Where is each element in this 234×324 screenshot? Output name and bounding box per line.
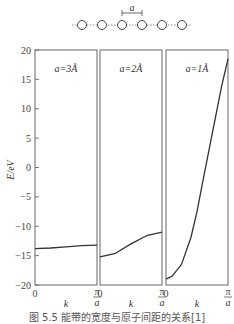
- atom-circle: [138, 21, 147, 30]
- y-axis-label: E/eV: [5, 158, 16, 180]
- x-tick-label-zero: 0: [164, 288, 169, 299]
- atom-circle: [178, 21, 187, 30]
- spacing-label: a: [130, 2, 135, 13]
- atom-circle: [98, 21, 107, 30]
- y-tick-label: 0: [26, 162, 31, 173]
- y-tick-label: 10: [21, 103, 31, 114]
- y-tick-label: 5: [26, 133, 31, 144]
- band-width-chart: a 20151050−5−10−15−20 E/eV a=3Å0πaka=2Å0…: [0, 0, 234, 324]
- panel-frame: [35, 50, 97, 285]
- panel-frame: [166, 50, 228, 285]
- y-tick-label: 15: [21, 74, 31, 85]
- y-tick-label: −15: [15, 250, 31, 261]
- panel-1: a=3Å0πak: [33, 50, 102, 309]
- x-axis-label: k: [195, 298, 200, 309]
- panel-2: a=2Å0πak: [98, 50, 167, 309]
- y-tick-label: −20: [15, 280, 31, 291]
- x-axis-label: k: [64, 298, 69, 309]
- figure-caption: 图 5.5 能带的宽度与原子间距的关系[1]: [29, 311, 206, 323]
- y-tick-label: −10: [15, 221, 31, 232]
- atom-circle: [78, 21, 87, 30]
- x-tick-label-a: a: [226, 297, 231, 308]
- x-tick-label-pi: π: [225, 286, 230, 297]
- panel-frame: [100, 50, 162, 285]
- x-tick-label-zero: 0: [33, 288, 38, 299]
- band-curve: [166, 59, 228, 279]
- panel-3: a=1Å0πak: [164, 50, 233, 309]
- panel-label: a=2Å: [120, 63, 144, 74]
- atom-chain-inset: a: [72, 2, 192, 30]
- band-curve: [100, 232, 162, 257]
- atom-circle: [118, 21, 127, 30]
- panel-label: a=3Å: [55, 63, 79, 74]
- band-curve: [35, 245, 97, 249]
- y-tick-label: 20: [21, 45, 31, 56]
- panel-label: a=1Å: [186, 63, 210, 74]
- x-tick-label-zero: 0: [98, 288, 103, 299]
- x-axis-label: k: [129, 298, 134, 309]
- y-tick-label: −5: [20, 191, 31, 202]
- atom-circle: [158, 21, 167, 30]
